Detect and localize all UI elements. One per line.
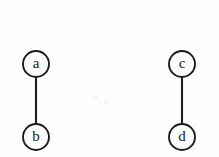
graph-diagram: a b c d [0,0,219,157]
node-d-label: d [178,128,186,144]
node-group: a b c d [23,51,195,150]
node-a-label: a [33,55,40,71]
figure-canvas: a b c d [0,0,219,157]
node-c-label: c [179,55,186,71]
node-b-label: b [32,128,40,144]
node-a[interactable]: a [23,51,49,77]
node-d[interactable]: d [169,124,195,150]
node-b[interactable]: b [23,124,49,150]
edge-group [36,77,182,124]
node-c[interactable]: c [169,51,195,77]
